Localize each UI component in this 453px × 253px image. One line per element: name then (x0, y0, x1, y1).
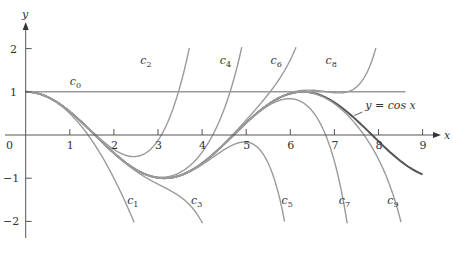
label-c5: c5 (281, 194, 292, 209)
x-tick-label: 2 (111, 139, 118, 152)
y-axis-arrow-icon (23, 22, 29, 30)
x-tick-label: 1 (67, 139, 74, 152)
label-c2: c2 (140, 54, 151, 69)
y-tick-label: 2 (10, 43, 17, 56)
taylor-curve-c7 (26, 92, 348, 224)
y-tick-label: −2 (3, 215, 19, 228)
cos-label-leader (354, 112, 362, 115)
x-tick-label: 5 (243, 139, 250, 152)
x-tick-label: 8 (376, 139, 383, 152)
x-tick-label: 4 (199, 139, 206, 152)
axes-group: x y (5, 8, 451, 238)
y-axis-label: y (21, 8, 29, 21)
x-tick-label: 6 (287, 139, 294, 152)
taylor-curve-c2 (26, 48, 190, 157)
x-tick-label: 7 (331, 139, 338, 152)
label-c6: c6 (270, 54, 281, 69)
y-tick-label: 1 (10, 86, 17, 99)
taylor-curve-c8 (26, 48, 376, 178)
taylor-curve-c3 (26, 92, 203, 223)
y-tick-label: −1 (3, 172, 19, 185)
label-c0: c0 (70, 75, 81, 90)
label-c4: c4 (220, 54, 231, 69)
label-y-eq-cos-x: y = cos x (364, 99, 416, 112)
label-c1: c1 (127, 194, 138, 209)
x-tick-label: 3 (155, 139, 162, 152)
taylor-curve-c6 (26, 47, 296, 178)
x-axis-arrow-icon (433, 132, 441, 138)
x-axis-label: x (444, 129, 451, 142)
label-c8: c8 (326, 54, 337, 69)
taylor-curve-c5 (26, 92, 285, 222)
label-c9: c9 (387, 194, 398, 209)
x-tick-label: 9 (420, 139, 427, 152)
taylor-polynomial-chart: x y 012345678921−1−2 c0c1c2c3c4c5c6c7c8c… (0, 0, 453, 253)
label-c7: c7 (339, 194, 350, 209)
label-c3: c3 (191, 194, 202, 209)
x-tick-label: 0 (6, 139, 13, 152)
